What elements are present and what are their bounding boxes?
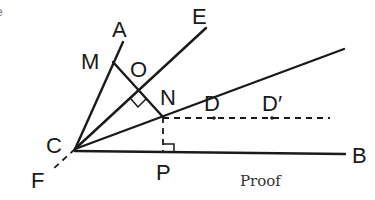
label-p: P: [156, 160, 171, 185]
caption-proof: Proof: [240, 172, 282, 190]
point-dot-d: [212, 116, 216, 120]
label-a: A: [112, 17, 127, 42]
label-d-prime: D′: [262, 91, 282, 116]
label-f: F: [31, 168, 44, 193]
label-c: C: [46, 133, 62, 158]
label-n: N: [160, 85, 176, 110]
label-o: O: [130, 57, 147, 82]
geometry-diagram: A E M O N D D′ C F P B Proof e r: [0, 0, 375, 200]
label-d: D: [204, 91, 220, 116]
label-b: B: [352, 143, 367, 168]
edge-fragment-top: e: [0, 5, 3, 19]
label-e: E: [192, 4, 207, 29]
right-angle-mark-o: [131, 99, 146, 107]
segment-cb: [75, 151, 345, 154]
label-m: M: [81, 49, 99, 74]
segment-ce: [75, 28, 206, 149]
point-dot-d-prime: [270, 116, 274, 120]
